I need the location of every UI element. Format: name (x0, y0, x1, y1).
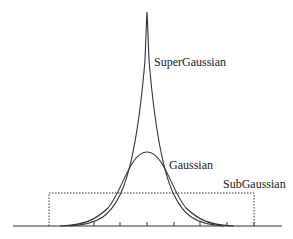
subgaussian-curve (49, 193, 254, 226)
label-supergaussian: SuperGaussian (154, 56, 226, 68)
supergaussian-curve (70, 12, 224, 226)
label-subgaussian: SubGaussian (223, 178, 286, 190)
distribution-diagram (0, 0, 293, 239)
label-gaussian: Gaussian (169, 159, 213, 171)
